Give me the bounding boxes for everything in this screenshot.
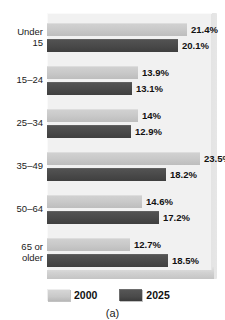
bar-2025 (47, 254, 168, 267)
bar-value-label: 13.9% (138, 66, 169, 79)
bar-group: Under1521.4%20.1% (0, 23, 225, 52)
bar-row: 23.5% (47, 152, 225, 165)
category-label-line: 15 (0, 38, 43, 49)
bar-group: 25–3414%12.9% (0, 109, 225, 138)
bar-value-label: 20.1% (178, 39, 209, 52)
bar-2000 (47, 238, 130, 251)
bar-group: 50–6414.6%17.2% (0, 195, 225, 224)
bar-groups: Under1521.4%20.1%15–2413.9%13.1%25–3414%… (0, 13, 225, 269)
bar-row: 13.9% (47, 66, 225, 79)
bar-row: 21.4% (47, 23, 225, 36)
legend-item-2000[interactable]: 2000 (47, 289, 97, 301)
bar-2025 (47, 82, 132, 95)
category-label-line: Under (0, 27, 43, 38)
chart-legend: 20002025 (47, 287, 225, 303)
bar-group: 65 orolder12.7%18.5% (0, 238, 225, 267)
bar-row: 14.6% (47, 195, 225, 208)
legend-label-2000: 2000 (74, 290, 97, 301)
bar-2000 (47, 152, 200, 165)
bar-row: 18.5% (47, 254, 225, 267)
bar-chart-figure: Under1521.4%20.1%15–2413.9%13.1%25–3414%… (0, 9, 225, 320)
legend-swatch-2000 (47, 289, 70, 301)
category-label-line: 65 or (0, 242, 43, 253)
bar-row: 20.1% (47, 39, 225, 52)
category-label-line: 25–34 (0, 118, 43, 129)
bar-value-label: 21.4% (187, 23, 218, 36)
bar-2025 (47, 125, 131, 138)
category-label: 15–24 (0, 75, 43, 86)
bar-2000 (47, 66, 138, 79)
category-label: Under15 (0, 27, 43, 48)
bar-2000 (47, 23, 187, 36)
bar-row: 13.1% (47, 82, 225, 95)
figure-caption: (a) (0, 307, 225, 319)
category-label-line: 15–24 (0, 75, 43, 86)
legend-label-2025: 2025 (146, 290, 169, 301)
category-label: 50–64 (0, 204, 43, 215)
bar-value-label: 12.7% (130, 238, 161, 251)
category-label: 25–34 (0, 118, 43, 129)
legend-swatch-2025 (119, 289, 142, 301)
bar-2025 (47, 39, 178, 52)
bar-value-label: 17.2% (159, 211, 190, 224)
bar-value-label: 14% (138, 109, 161, 122)
bar-row: 17.2% (47, 211, 225, 224)
category-label-line: older (0, 253, 43, 264)
clipped-title-strip (0, 0, 225, 9)
bar-2000 (47, 109, 138, 122)
bar-2025 (47, 168, 166, 181)
bar-row: 12.9% (47, 125, 225, 138)
bar-group: 15–2413.9%13.1% (0, 66, 225, 95)
category-label-line: 50–64 (0, 204, 43, 215)
bar-2000 (47, 195, 142, 208)
bar-group: 35–4923.5%18.2% (0, 152, 225, 181)
bar-value-label: 13.1% (132, 82, 163, 95)
legend-item-2025[interactable]: 2025 (119, 289, 169, 301)
bar-row: 12.7% (47, 238, 225, 251)
bar-value-label: 23.5% (200, 152, 225, 165)
bar-value-label: 18.2% (166, 168, 197, 181)
category-label: 35–49 (0, 161, 43, 172)
bar-value-label: 18.5% (168, 254, 199, 267)
bar-value-label: 14.6% (142, 195, 173, 208)
category-label: 65 orolder (0, 242, 43, 263)
bar-row: 18.2% (47, 168, 225, 181)
bar-2025 (47, 211, 159, 224)
category-label-line: 35–49 (0, 161, 43, 172)
bar-row: 14% (47, 109, 225, 122)
bar-value-label: 12.9% (131, 125, 162, 138)
